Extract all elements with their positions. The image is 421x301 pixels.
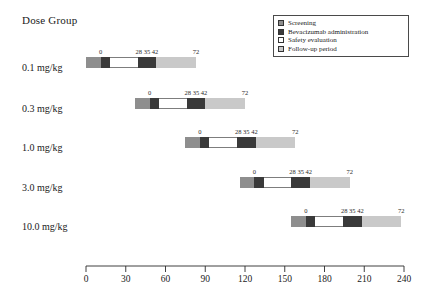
day-marker-label: 28 35 42 <box>136 48 159 55</box>
axis-tick-label-0: 0 <box>84 274 89 284</box>
segment-safety-evaluation-2 <box>209 137 237 148</box>
segment-safety-evaluation-2 <box>315 216 343 227</box>
segment-bevacizumab-administration-3 <box>291 177 310 188</box>
segment-bevacizumab-administration-3 <box>187 98 206 109</box>
legend-item-label: Safety evaluation <box>288 36 337 45</box>
day-marker-label: 0 <box>99 48 102 55</box>
segment-follow-up-period-4 <box>310 177 350 188</box>
timeline-bar <box>0 57 421 68</box>
segment-bevacizumab-administration-1 <box>254 177 263 188</box>
segment-bevacizumab-administration-3 <box>237 137 256 148</box>
screening-swatch-icon <box>278 20 284 26</box>
legend-item-2: Safety evaluation <box>278 36 404 45</box>
segment-follow-up-period-4 <box>362 216 402 227</box>
segment-bevacizumab-administration-1 <box>200 137 209 148</box>
legend-item-label: Bevacizumab administration <box>288 28 368 37</box>
legend-item-3: Follow-up period <box>278 45 404 54</box>
day-marker-label: 28 35 42 <box>185 89 208 96</box>
legend-item-label: Follow-up period <box>288 45 337 54</box>
segment-follow-up-period-4 <box>205 98 245 109</box>
clinical-trial-timeline-chart: Dose Group ScreeningBevacizumab administ… <box>0 0 421 301</box>
segment-bevacizumab-administration-3 <box>138 57 157 68</box>
segment-safety-evaluation-2 <box>159 98 187 109</box>
day-marker-label: 72 <box>346 168 353 175</box>
administration-swatch-icon <box>278 29 284 35</box>
day-marker-label: 0 <box>148 89 151 96</box>
day-marker-label: 28 35 42 <box>341 207 364 214</box>
segment-follow-up-period-4 <box>256 137 296 148</box>
axis-tick-label-60: 60 <box>161 274 171 284</box>
day-marker-label: 0 <box>253 168 256 175</box>
segment-bevacizumab-administration-3 <box>343 216 362 227</box>
legend-item-label: Screening <box>288 19 316 28</box>
page-title: Dose Group <box>22 14 77 26</box>
day-marker-label: 72 <box>292 128 299 135</box>
timeline-bar <box>0 137 421 148</box>
segment-safety-evaluation-2 <box>110 57 138 68</box>
segment-screening-0 <box>240 177 255 188</box>
axis-tick-label-180: 180 <box>317 274 331 284</box>
segment-bevacizumab-administration-1 <box>306 216 315 227</box>
legend-item-1: Bevacizumab administration <box>278 28 404 37</box>
axis-tick-label-30: 30 <box>121 274 131 284</box>
timeline-bar <box>0 177 421 188</box>
segment-bevacizumab-administration-1 <box>150 98 159 109</box>
segment-screening-0 <box>86 57 101 68</box>
timeline-bar <box>0 216 421 227</box>
day-marker-label: 28 35 42 <box>289 168 312 175</box>
safety-evaluation-swatch-icon <box>278 37 284 43</box>
day-marker-label: 72 <box>398 207 405 214</box>
segment-bevacizumab-administration-1 <box>101 57 110 68</box>
day-marker-label: 28 35 42 <box>235 128 258 135</box>
legend: ScreeningBevacizumab administrationSafet… <box>273 15 409 57</box>
axis-tick-label-120: 120 <box>238 274 252 284</box>
axis-tick-label-90: 90 <box>201 274 211 284</box>
segment-screening-0 <box>291 216 306 227</box>
segment-screening-0 <box>185 137 200 148</box>
day-marker-label: 0 <box>198 128 201 135</box>
segment-screening-0 <box>135 98 150 109</box>
day-marker-label: 72 <box>193 48 200 55</box>
day-marker-label: 0 <box>304 207 307 214</box>
axis-tick-label-210: 210 <box>357 274 371 284</box>
follow-up-swatch-icon <box>278 46 284 52</box>
segment-follow-up-period-4 <box>156 57 196 68</box>
axis-tick-label-240: 240 <box>397 274 411 284</box>
timeline-bar <box>0 98 421 109</box>
axis-tick-label-150: 150 <box>278 274 292 284</box>
legend-item-0: Screening <box>278 19 404 28</box>
day-marker-label: 72 <box>242 89 249 96</box>
segment-safety-evaluation-2 <box>264 177 292 188</box>
